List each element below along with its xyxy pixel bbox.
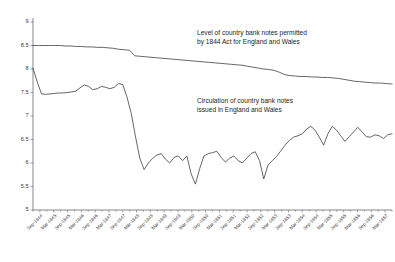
annotation-permitted-line2: by 1844 Act for England and Wales [197, 37, 307, 46]
chart-container: 55.566.577.588.59 Sep-1844Mar-1845Sep-18… [0, 0, 395, 262]
y-axis-tick-label: 8.5 [21, 42, 29, 48]
annotation-circulation-line1: Circulation of country bank notes [197, 96, 293, 105]
annotation-circulation-line2: issued in England and Wales [197, 105, 293, 114]
x-axis-labels: Sep-1844Mar-1845Sep-1845Mar-1846Sep-1846… [26, 213, 389, 231]
series-line-permitted [33, 46, 392, 85]
y-axis-tick-label: 7.5 [21, 89, 29, 95]
annotation-circulation: Circulation of country bank notes issued… [197, 96, 293, 114]
y-axis-tick-label: 7 [25, 112, 28, 118]
y-axis-labels: 55.566.577.588.59 [21, 18, 29, 212]
series-line-circulation [33, 68, 392, 184]
y-axis-tick-label: 5 [25, 206, 28, 212]
y-axis-tick-label: 9 [25, 18, 28, 24]
x-axis-ticks [33, 210, 392, 213]
y-axis-tick-label: 6 [25, 159, 28, 165]
y-axis-tick-label: 6.5 [21, 136, 29, 142]
x-axis-tick-label: Mar-1857 [371, 213, 389, 231]
y-axis-ticks [31, 22, 34, 210]
y-axis-tick-label: 5.5 [21, 183, 29, 189]
y-axis-tick-label: 8 [25, 65, 28, 71]
annotation-permitted-level: Level of country bank notes permitted by… [197, 28, 307, 46]
annotation-permitted-line1: Level of country bank notes permitted [197, 28, 307, 37]
